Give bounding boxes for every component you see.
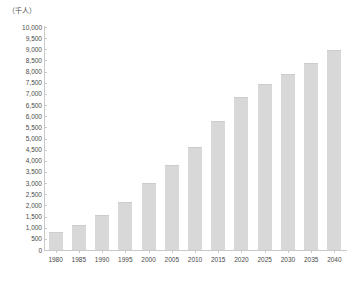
y-axis-tick-mark [44, 38, 47, 39]
x-axis-tick-mark [102, 250, 103, 253]
y-axis-tick-label: 5,000 [26, 134, 42, 143]
y-axis-tick-mark [44, 72, 47, 73]
y-axis-tick-label: 3,000 [26, 179, 42, 188]
bar [188, 147, 202, 250]
bar-column [118, 27, 132, 250]
y-axis-tick-label: 2,500 [26, 190, 42, 199]
bar [304, 63, 318, 250]
y-axis-tick-label: 3,500 [26, 167, 42, 176]
bar [327, 50, 341, 250]
bar [142, 183, 156, 250]
bar-column [72, 27, 86, 250]
x-axis-tick-mark [218, 250, 219, 253]
bar-column [95, 27, 109, 250]
y-axis-tick-mark [44, 116, 47, 117]
y-axis-tick-mark [44, 139, 47, 140]
x-axis-tick-mark [265, 250, 266, 253]
x-axis-tick-mark [149, 250, 150, 253]
bar-chart: （千人） 10,0009,5009,0008,5008,0007,5007,00… [0, 0, 352, 285]
y-axis-tick-label: 4,000 [26, 156, 42, 165]
bar-column [234, 27, 248, 250]
y-axis-tick-label: 7,500 [26, 78, 42, 87]
bar [72, 225, 86, 250]
bar [165, 165, 179, 250]
y-axis-tick-mark [44, 49, 47, 50]
bar-column [188, 27, 202, 250]
bar-column [165, 27, 179, 250]
y-axis-tick-mark [44, 150, 47, 151]
x-axis-tick-mark [241, 250, 242, 253]
y-axis-tick-label: 1,500 [26, 212, 42, 221]
y-axis-tick-mark [44, 161, 47, 162]
bar-column [258, 27, 272, 250]
y-axis-tick-mark [44, 183, 47, 184]
y-axis-tick-label: 1,000 [26, 223, 42, 232]
x-axis-tick-mark [334, 250, 335, 253]
x-axis-tick-mark [125, 250, 126, 253]
bar [211, 121, 225, 250]
y-axis-tick-mark [44, 60, 47, 61]
x-axis-tick-mark [79, 250, 80, 253]
x-axis-tick-mark [172, 250, 173, 253]
x-axis-tick-mark [56, 250, 57, 253]
bar-column [327, 27, 341, 250]
y-axis-tick-mark [44, 127, 47, 128]
bar-column [142, 27, 156, 250]
y-axis-tick-label: 6,000 [26, 112, 42, 121]
x-axis-tick-label: 2040 [319, 255, 349, 264]
y-axis-tick-label: 2,000 [26, 201, 42, 210]
x-axis-tick-mark [195, 250, 196, 253]
bar [95, 215, 109, 250]
y-axis-tick-mark [44, 217, 47, 218]
y-axis-unit-caption: （千人） [8, 6, 36, 15]
bar [49, 232, 63, 251]
y-axis-tick-mark [44, 172, 47, 173]
y-axis-tick-label: 9,000 [26, 45, 42, 54]
bar [118, 202, 132, 250]
y-axis-tick-label: 4,500 [26, 145, 42, 154]
y-axis-tick-label: 9,500 [26, 34, 42, 43]
bar [258, 84, 272, 250]
y-axis-tick-mark [44, 250, 47, 251]
y-axis-tick-mark [44, 94, 47, 95]
bar-column [49, 27, 63, 250]
y-axis-tick-mark [44, 239, 47, 240]
y-axis-tick-label: 8,000 [26, 67, 42, 76]
y-axis-tick-mark [44, 83, 47, 84]
bar-column [211, 27, 225, 250]
y-axis-tick-label: 5,500 [26, 123, 42, 132]
y-axis-tick-label: 8,500 [26, 56, 42, 65]
y-axis-tick-mark [44, 27, 47, 28]
x-axis-tick-mark [311, 250, 312, 253]
y-axis-tick-label: 500 [31, 234, 42, 243]
y-axis-tick-mark [44, 105, 47, 106]
bar-column [304, 27, 318, 250]
y-axis-tick-mark [44, 205, 47, 206]
y-axis-tick-mark [44, 194, 47, 195]
y-axis-tick-label: 10,000 [22, 23, 42, 32]
y-axis-tick-label: 0 [38, 246, 42, 255]
bar [281, 74, 295, 250]
y-axis-tick-label: 6,500 [26, 101, 42, 110]
y-axis-tick-label: 7,000 [26, 89, 42, 98]
bar-column [281, 27, 295, 250]
bar [234, 97, 248, 250]
x-axis-tick-mark [288, 250, 289, 253]
y-axis-tick-mark [44, 228, 47, 229]
